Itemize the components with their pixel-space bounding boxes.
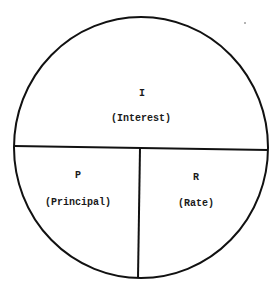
horizontal-divider bbox=[14, 146, 268, 150]
principal-label: (Principal) bbox=[45, 197, 111, 208]
section-rate: R (Rate) bbox=[178, 172, 214, 209]
scan-speck bbox=[244, 22, 246, 24]
rate-letter: R bbox=[193, 172, 199, 183]
interest-circle-diagram: I (Interest) P (Principal) R (Rate) bbox=[0, 0, 280, 296]
interest-letter: I bbox=[139, 88, 145, 99]
vertical-divider bbox=[138, 148, 140, 278]
section-interest: I (Interest) bbox=[111, 88, 171, 124]
principal-letter: P bbox=[75, 170, 81, 181]
rate-label: (Rate) bbox=[178, 198, 214, 209]
interest-label: (Interest) bbox=[111, 113, 171, 124]
section-principal: P (Principal) bbox=[45, 170, 111, 208]
